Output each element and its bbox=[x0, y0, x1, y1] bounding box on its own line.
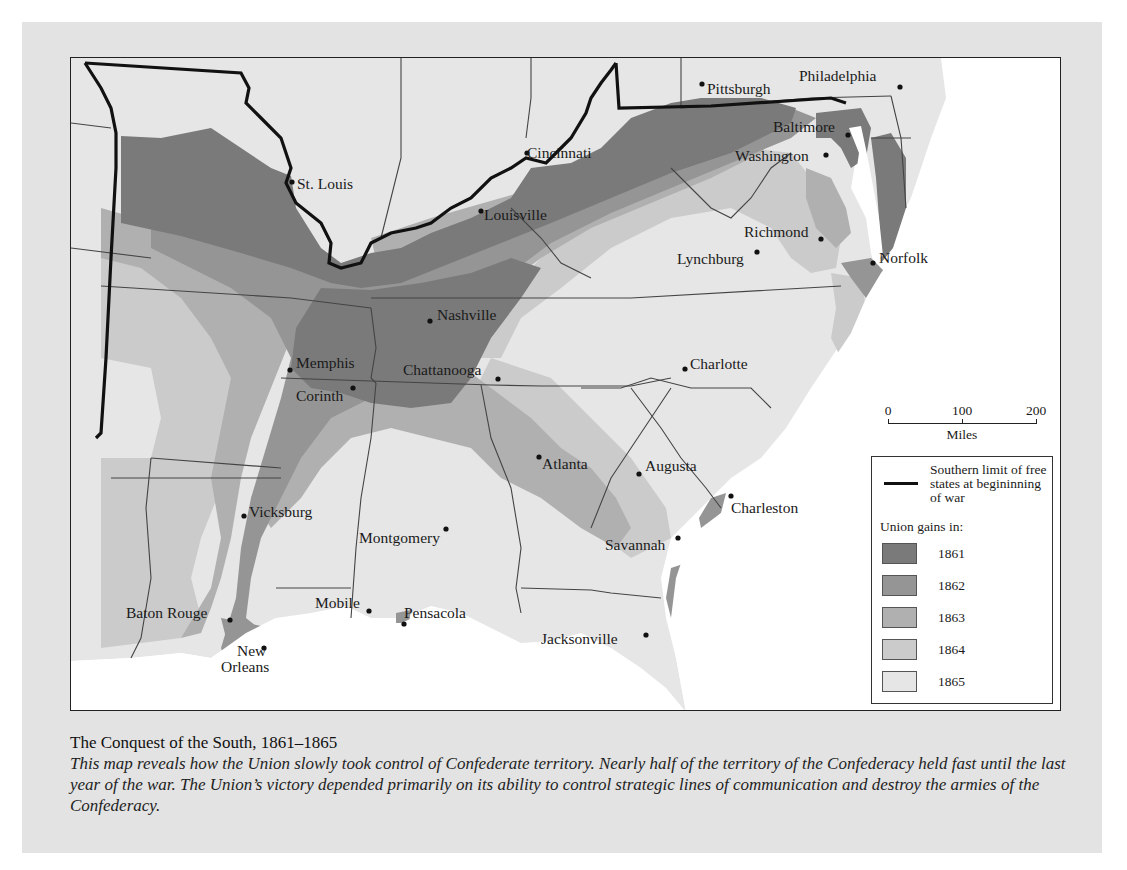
svg-text:Nashville: Nashville bbox=[437, 306, 497, 323]
svg-text:Norfolk: Norfolk bbox=[879, 249, 928, 266]
svg-text:Lynchburg: Lynchburg bbox=[677, 250, 744, 267]
svg-text:Philadelphia: Philadelphia bbox=[799, 67, 877, 84]
svg-text:Baltimore: Baltimore bbox=[773, 118, 835, 135]
city-memphis: Memphis bbox=[287, 354, 354, 373]
scale-label-200: 200 bbox=[1026, 403, 1046, 419]
city-cincinnati: Cincinnati bbox=[524, 144, 592, 161]
legend-swatch bbox=[882, 575, 917, 596]
scale-bar: 0 100 200 Miles bbox=[881, 403, 1041, 451]
svg-text:Charleston: Charleston bbox=[731, 499, 798, 516]
legend-swatch bbox=[882, 543, 917, 564]
caption-title: The Conquest of the South, 1861–1865 bbox=[70, 732, 1080, 753]
svg-text:Baton Rouge: Baton Rouge bbox=[126, 604, 207, 621]
map-legend: Southern limit of free states at beginin… bbox=[871, 456, 1053, 704]
legend-item-1862: 1862 bbox=[882, 575, 1042, 597]
scale-tick bbox=[1036, 419, 1037, 424]
city-louisville: Louisville bbox=[478, 206, 547, 223]
city-charlotte: Charlotte bbox=[682, 355, 747, 372]
svg-text:Orleans: Orleans bbox=[221, 658, 269, 675]
city-montgomery: Montgomery bbox=[359, 526, 449, 546]
city-nashville: Nashville bbox=[427, 306, 496, 324]
svg-text:Cincinnati: Cincinnati bbox=[527, 144, 592, 161]
city-pittsburgh: Pittsburgh bbox=[699, 80, 770, 97]
legend-boundary-row: Southern limit of free states at beginin… bbox=[880, 463, 1050, 513]
legend-item-1865: 1865 bbox=[882, 671, 1042, 693]
svg-text:Corinth: Corinth bbox=[296, 387, 344, 404]
scale-unit: Miles bbox=[881, 427, 1043, 443]
svg-text:Memphis: Memphis bbox=[296, 354, 355, 371]
scale-tick bbox=[888, 419, 889, 424]
legend-year: 1863 bbox=[938, 610, 965, 626]
scale-tick bbox=[962, 419, 963, 424]
svg-text:Pittsburgh: Pittsburgh bbox=[707, 80, 771, 97]
city-st-louis: St. Louis bbox=[289, 175, 353, 192]
city-vicksburg: Vicksburg bbox=[241, 503, 312, 520]
svg-text:Mobile: Mobile bbox=[315, 594, 360, 611]
svg-text:Augusta: Augusta bbox=[645, 457, 697, 474]
city-norfolk: Norfolk bbox=[870, 249, 928, 266]
svg-text:Charlotte: Charlotte bbox=[690, 355, 748, 372]
legend-boundary-label: Southern limit of free states at beginin… bbox=[930, 463, 1055, 505]
svg-text:Richmond: Richmond bbox=[744, 223, 809, 240]
city-atlanta: Atlanta bbox=[536, 454, 587, 472]
legend-year: 1862 bbox=[938, 578, 965, 594]
svg-text:Chattanooga: Chattanooga bbox=[403, 361, 481, 378]
legend-gains-title: Union gains in: bbox=[880, 519, 963, 535]
svg-text:Savannah: Savannah bbox=[605, 536, 666, 553]
legend-swatch bbox=[882, 671, 917, 692]
svg-text:Washington: Washington bbox=[735, 147, 809, 164]
legend-item-1864: 1864 bbox=[882, 639, 1042, 661]
scale-label-0: 0 bbox=[885, 403, 892, 419]
svg-text:Jacksonville: Jacksonville bbox=[541, 630, 618, 647]
city-augusta: Augusta bbox=[636, 457, 696, 477]
svg-text:Atlanta: Atlanta bbox=[542, 455, 588, 472]
figure-caption: The Conquest of the South, 1861–1865 Thi… bbox=[70, 732, 1080, 816]
boundary-line-swatch bbox=[884, 482, 918, 485]
legend-swatch bbox=[882, 639, 917, 660]
svg-text:Vicksburg: Vicksburg bbox=[249, 503, 313, 520]
caption-body: This map reveals how the Union slowly to… bbox=[70, 753, 1080, 816]
scale-label-100: 100 bbox=[952, 403, 972, 419]
svg-text:St. Louis: St. Louis bbox=[297, 175, 353, 192]
legend-year: 1864 bbox=[938, 642, 965, 658]
legend-item-1863: 1863 bbox=[882, 607, 1042, 629]
legend-year: 1865 bbox=[938, 674, 965, 690]
svg-text:Pensacola: Pensacola bbox=[404, 604, 466, 621]
svg-text:New: New bbox=[237, 642, 267, 659]
svg-text:Louisville: Louisville bbox=[484, 206, 547, 223]
legend-year: 1861 bbox=[938, 546, 965, 562]
legend-swatch bbox=[882, 607, 917, 628]
map-frame: Pittsburgh Philadelphia Baltimore Washin… bbox=[70, 57, 1061, 711]
legend-item-1861: 1861 bbox=[882, 543, 1042, 565]
svg-text:Montgomery: Montgomery bbox=[359, 529, 440, 546]
